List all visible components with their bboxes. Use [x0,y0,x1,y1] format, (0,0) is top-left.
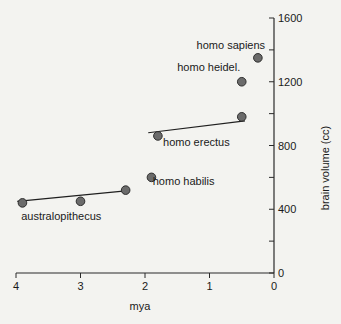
data-point [254,54,263,63]
point-label: homo heidel. [177,61,240,73]
x-axis-title: mya [130,300,152,312]
x-tick-label: 2 [142,280,148,292]
brain-volume-chart: 040080012001600 brain volume (cc) 43210 … [0,0,341,324]
y-tick-label: 800 [278,140,296,152]
x-tick-label: 4 [13,280,19,292]
data-point [121,186,130,195]
data-point [237,77,246,86]
data-point [154,132,163,141]
trend-line [148,121,245,133]
data-point [76,197,85,206]
point-label: australopithecus [21,210,102,222]
x-tick-label: 0 [271,280,277,292]
y-tick-label: 1600 [278,12,302,24]
data-point [237,113,246,122]
y-tick-label: 400 [278,203,296,215]
y-axis-title: brain volume (cc) [319,126,331,210]
point-label: homo sapiens [197,39,266,51]
y-axis: 040080012001600 brain volume (cc) [269,12,331,279]
point-label: homo habilis [153,175,215,187]
y-tick-label: 1200 [278,76,302,88]
y-tick-label: 0 [278,267,284,279]
x-tick-label: 3 [77,280,83,292]
trend-lines [17,121,245,201]
x-axis: 43210 mya [13,273,277,312]
point-label: homo erectus [163,136,230,148]
data-points [18,54,262,208]
data-point [18,199,27,208]
trend-line [17,191,125,201]
x-tick-label: 1 [206,280,212,292]
point-labels: australopithecushomo habilishomo erectus… [21,39,265,222]
